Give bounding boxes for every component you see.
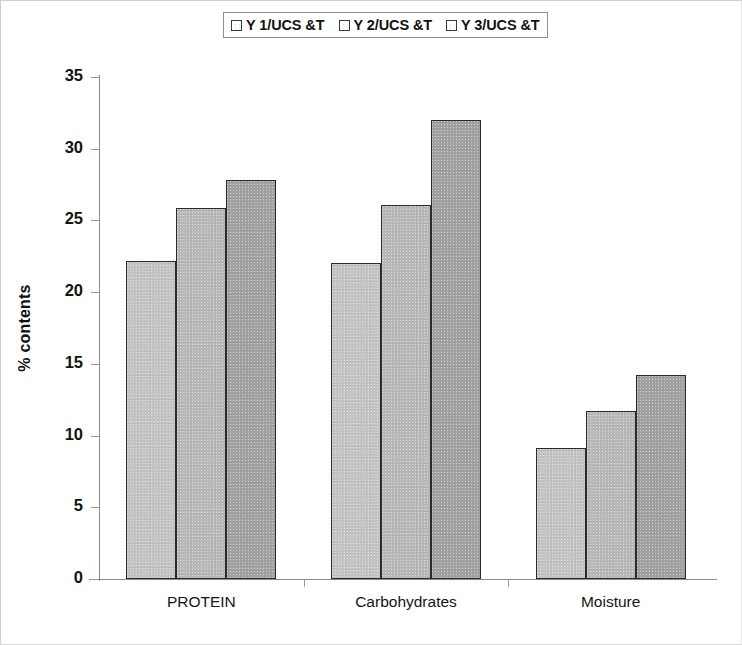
x-axis-tick [508,579,509,587]
legend-entry-series-1: Y 1/UCS &T [231,17,325,33]
y-axis-title: % contents [11,77,39,579]
bar [331,263,381,579]
y-axis-tick-label: 25 [39,209,83,228]
plot-area [99,77,713,579]
x-axis-category-label: Carbohydrates [355,593,457,611]
bar [636,375,686,579]
y-axis-tick [91,77,99,78]
y-axis-tick-label: 15 [39,353,83,372]
y-axis-tick [91,436,99,437]
x-axis-line [89,579,717,580]
bar [536,448,586,579]
x-axis-tick [304,579,305,587]
y-axis-tick [91,149,99,150]
bar [176,208,226,579]
x-axis-category-label: PROTEIN [167,593,236,611]
bar [431,120,481,579]
legend-entry-series-3: Y 3/UCS &T [446,17,540,33]
chart-figure: Y 1/UCS &T Y 2/UCS &T Y 3/UCS &T % conte… [0,0,742,645]
legend-swatch-series-3 [446,20,457,31]
chart-legend: Y 1/UCS &T Y 2/UCS &T Y 3/UCS &T [223,12,548,38]
legend-label-series-2: Y 2/UCS &T [354,17,433,33]
bar [381,205,431,579]
x-axis-category-label: Moisture [581,593,640,611]
bar [126,261,176,579]
y-axis-tick [91,220,99,221]
y-axis-tick [91,507,99,508]
legend-swatch-series-1 [231,20,242,31]
y-axis-title-text: % contents [16,284,34,371]
legend-swatch-series-2 [339,20,350,31]
y-axis-tick-label: 0 [39,568,83,587]
y-axis-tick-label: 5 [39,496,83,515]
y-axis-tick [91,292,99,293]
y-axis-tick-label: 20 [39,281,83,300]
y-axis-tick [91,364,99,365]
legend-label-series-3: Y 3/UCS &T [461,17,540,33]
y-axis-tick-label: 35 [39,66,83,85]
y-axis-tick-label: 30 [39,138,83,157]
bar [226,180,276,579]
legend-entry-series-2: Y 2/UCS &T [339,17,433,33]
bar [586,411,636,579]
y-axis-tick [91,579,99,580]
y-axis-tick-label: 10 [39,425,83,444]
legend-label-series-1: Y 1/UCS &T [246,17,325,33]
